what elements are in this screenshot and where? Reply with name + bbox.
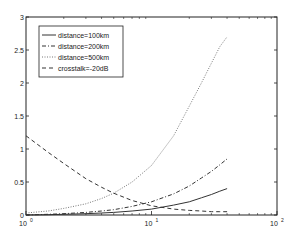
y-tick-label: 3 [20,14,24,21]
legend-label: distance=100km [58,32,109,39]
x-tick-exponent: 2 [281,217,284,223]
series-line-crosstalk-20db [26,136,227,212]
series-line-distance-200km [26,159,227,215]
y-tick-label: 0.5 [14,179,24,186]
x-tick-exponent: 1 [156,217,159,223]
line-chart: 00.511.522.53 100101102 distance=100km d… [0,0,292,235]
x-tick-label: 10 [145,220,153,227]
legend-label: distance=500km [58,54,109,61]
y-tick-label: 2 [20,80,24,87]
x-tick-exponent: 0 [30,217,33,223]
y-tick-label: 2.5 [14,47,24,54]
y-tick-label: 1 [20,146,24,153]
y-tick-label: 0 [20,212,24,219]
x-tick-label: 10 [270,220,278,227]
y-tick-label: 1.5 [14,113,24,120]
legend-label: distance=200km [58,43,109,50]
legend: distance=100km distance=200km distance=5… [39,26,123,77]
legend-label: crosstalk=-20dB [58,65,109,72]
x-tick-label: 10 [19,220,27,227]
